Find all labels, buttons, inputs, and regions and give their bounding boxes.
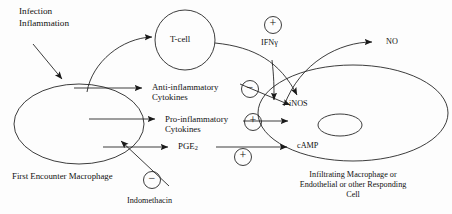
responding-cell-caption-line3: Cell [272, 190, 434, 199]
anti-inflammatory-minus-sign: − [240, 81, 260, 94]
camp-label: cAMP [297, 141, 318, 150]
pge2-subscript: 2 [195, 144, 198, 151]
responding-cell-caption-line2: Endothelial or other Responding [272, 180, 434, 189]
anti-inflammatory-label-line2: Cytokines [152, 93, 188, 103]
indomethacin-label: Indomethacin [127, 196, 172, 205]
pge2-base-text: PGE [178, 141, 195, 151]
inos-input-arrow [272, 60, 274, 100]
tcell-label: T-cell [170, 35, 190, 45]
responding-cell-caption-line1: Infiltrating Macrophage or [272, 170, 434, 179]
responding-cell-nucleus [318, 114, 362, 136]
ifng-label: IFNγ [261, 38, 278, 47]
pge2-plus-sign: + [233, 149, 253, 162]
inos-label: iNOS [289, 99, 308, 108]
macrophage-caption: First Encounter Macrophage [12, 172, 113, 182]
macrophage-outline [14, 84, 144, 164]
stimulus-infection-label: Infection [19, 6, 52, 16]
pge2-label: PGE2 [178, 142, 198, 152]
infection-inflammation-arrow [33, 44, 62, 79]
macrophage-to-tcell-arrow [87, 37, 152, 92]
stimulus-inflammation-label: Inflammation [19, 18, 69, 28]
pro-inflammatory-label-line2: Cytokines [165, 125, 201, 135]
signaling-diagram: Infection Inflammation T-cell Anti-infla… [0, 0, 452, 214]
no-label: NO [386, 37, 398, 46]
ifng-plus-sign: + [263, 17, 283, 30]
pro-inflammatory-plus-sign: + [243, 114, 263, 127]
indomethacin-minus-sign: − [142, 172, 162, 185]
